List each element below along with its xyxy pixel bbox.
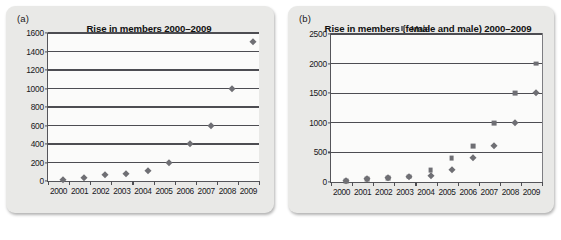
data-point-marker bbox=[427, 172, 435, 180]
y-axis-tick-label: 800 bbox=[31, 102, 44, 112]
x-axis-tick-mark bbox=[331, 182, 332, 186]
y-axis-tick-label: 500 bbox=[314, 147, 327, 157]
data-point-marker bbox=[532, 89, 540, 97]
x-axis-tick-mark bbox=[521, 182, 522, 186]
data-point-marker bbox=[534, 61, 539, 66]
data-point-marker bbox=[123, 170, 131, 178]
plot-area-b: 0500100015002000250020002001200220032004… bbox=[330, 33, 543, 183]
gridline bbox=[331, 152, 542, 153]
plot-area-a: 0200400600800100012001400160020002001200… bbox=[47, 33, 259, 182]
x-axis-tick-label: 2003 bbox=[396, 187, 413, 197]
data-point-marker bbox=[406, 173, 414, 181]
y-axis-tick-mark bbox=[328, 63, 332, 64]
x-axis-tick-label: 2004 bbox=[134, 186, 151, 196]
data-point-marker bbox=[490, 143, 498, 151]
x-axis-tick-label: 2008 bbox=[502, 187, 519, 197]
y-axis-tick-mark bbox=[45, 51, 49, 52]
y-axis-tick-mark bbox=[328, 93, 332, 94]
gridline bbox=[48, 69, 259, 70]
x-axis-tick-label: 2000 bbox=[50, 186, 67, 196]
x-axis-tick-mark bbox=[352, 182, 353, 186]
y-axis-tick-label: 1000 bbox=[309, 118, 327, 128]
x-axis-tick-label: 2004 bbox=[417, 187, 434, 197]
x-axis-tick-label: 2005 bbox=[155, 186, 172, 196]
y-axis-tick-label: 2000 bbox=[309, 59, 327, 69]
x-axis-tick-mark bbox=[415, 182, 416, 186]
x-axis-tick-label: 2009 bbox=[523, 187, 540, 197]
x-axis-tick-label: 2002 bbox=[375, 187, 392, 197]
y-axis-tick-mark bbox=[328, 122, 332, 123]
x-axis-tick-mark bbox=[479, 182, 480, 186]
data-point-marker bbox=[102, 172, 110, 180]
gridline bbox=[48, 32, 259, 33]
y-axis-tick-label: 1200 bbox=[26, 65, 44, 75]
x-axis-tick-mark bbox=[458, 182, 459, 186]
y-axis-tick-label: 1000 bbox=[26, 84, 44, 94]
x-axis-tick-label: 2006 bbox=[177, 186, 194, 196]
data-point-marker bbox=[449, 156, 454, 161]
gridline bbox=[48, 162, 259, 163]
x-axis-tick-mark bbox=[394, 182, 395, 186]
x-axis-tick-mark bbox=[259, 181, 260, 185]
x-axis-tick-mark bbox=[373, 182, 374, 186]
square-marker-icon bbox=[398, 26, 408, 31]
gridline bbox=[48, 106, 259, 107]
x-axis-tick-label: 2007 bbox=[198, 186, 215, 196]
y-axis-tick-label: 200 bbox=[31, 158, 44, 168]
data-point-marker bbox=[469, 155, 477, 163]
x-axis-tick-label: 2007 bbox=[481, 187, 498, 197]
x-axis-tick-mark bbox=[238, 181, 239, 185]
x-axis-tick-mark bbox=[500, 182, 501, 186]
x-axis-tick-mark bbox=[437, 182, 438, 186]
legend-label-male: Male bbox=[411, 24, 430, 34]
y-axis-tick-label: 400 bbox=[31, 139, 44, 149]
x-axis-tick-mark bbox=[154, 181, 155, 185]
data-point-marker bbox=[511, 119, 519, 127]
data-point-marker bbox=[228, 85, 236, 93]
data-point-marker bbox=[186, 140, 194, 148]
x-axis-tick-mark bbox=[90, 181, 91, 185]
x-axis-tick-label: 2006 bbox=[460, 187, 477, 197]
data-point-marker bbox=[80, 174, 88, 182]
x-axis-tick-label: 2001 bbox=[354, 187, 371, 197]
y-axis-tick-mark bbox=[45, 32, 49, 33]
x-axis-tick-mark bbox=[196, 181, 197, 185]
x-axis-tick-label: 2009 bbox=[240, 186, 257, 196]
gridline bbox=[331, 63, 542, 64]
y-axis-tick-label: 600 bbox=[31, 121, 44, 131]
x-axis-tick-label: 2003 bbox=[113, 186, 130, 196]
x-axis-tick-label: 2005 bbox=[438, 187, 455, 197]
x-axis-tick-mark bbox=[175, 181, 176, 185]
gridline bbox=[48, 143, 259, 144]
x-axis-tick-mark bbox=[48, 181, 49, 185]
x-axis-tick-mark bbox=[69, 181, 70, 185]
data-point-marker bbox=[385, 174, 393, 182]
data-point-marker bbox=[448, 166, 456, 174]
gridline bbox=[331, 93, 542, 94]
data-point-marker bbox=[363, 175, 371, 183]
y-axis-tick-mark bbox=[45, 125, 49, 126]
y-axis-tick-label: 1600 bbox=[26, 28, 44, 38]
data-point-marker bbox=[144, 167, 152, 175]
data-point-marker bbox=[513, 91, 518, 96]
y-axis-tick-label: 1500 bbox=[309, 88, 327, 98]
gridline bbox=[48, 51, 259, 52]
x-axis-tick-label: 2001 bbox=[71, 186, 88, 196]
y-axis-tick-mark bbox=[45, 106, 49, 107]
y-axis-tick-label: 1400 bbox=[26, 47, 44, 57]
y-axis-tick-mark bbox=[45, 162, 49, 163]
y-axis-tick-label: 0 bbox=[323, 177, 327, 187]
x-axis-tick-label: 2000 bbox=[333, 187, 350, 197]
data-point-marker bbox=[491, 120, 496, 125]
x-axis-tick-mark bbox=[542, 182, 543, 186]
y-axis-tick-mark bbox=[328, 152, 332, 153]
x-axis-tick-mark bbox=[111, 181, 112, 185]
data-point-marker bbox=[207, 122, 215, 130]
gridline bbox=[48, 125, 259, 126]
data-point-marker bbox=[249, 38, 257, 46]
data-point-marker bbox=[470, 144, 475, 149]
y-axis-tick-mark bbox=[45, 143, 49, 144]
y-axis-tick-label: 0 bbox=[40, 176, 44, 186]
x-axis-tick-mark bbox=[217, 181, 218, 185]
y-axis-tick-mark bbox=[328, 33, 332, 34]
